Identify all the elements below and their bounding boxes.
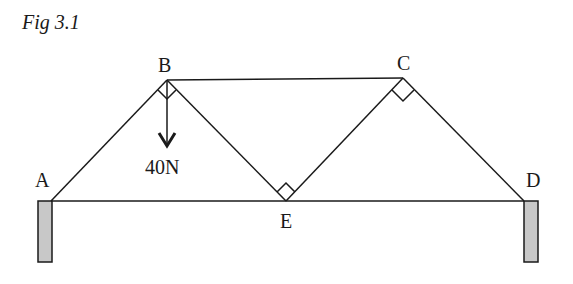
support-d — [524, 201, 538, 262]
node-label-d: D — [526, 169, 540, 191]
member-ab — [51, 80, 167, 201]
node-label-c: C — [397, 52, 410, 74]
node-label-a: A — [35, 169, 50, 191]
truss-diagram: Fig 3.1 40N A B C D E — [0, 0, 573, 284]
node-label-e: E — [280, 210, 292, 232]
right-angle-marker-c — [392, 90, 414, 101]
member-be — [167, 80, 286, 201]
member-bc-top-chord — [167, 78, 403, 80]
support-a — [38, 201, 52, 262]
load-label: 40N — [145, 156, 179, 178]
figure-title: Fig 3.1 — [21, 11, 80, 34]
node-label-b: B — [158, 54, 171, 76]
member-ec — [286, 78, 403, 201]
right-angle-marker-e — [277, 183, 295, 192]
member-cd — [403, 78, 524, 201]
